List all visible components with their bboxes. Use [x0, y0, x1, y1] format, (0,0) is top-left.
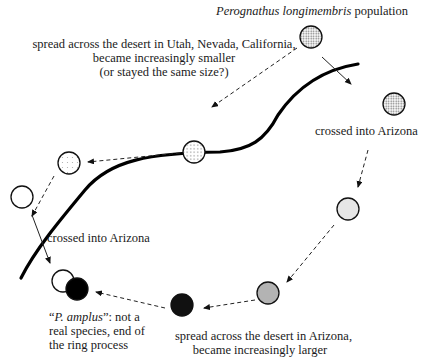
population-west-2 [58, 152, 80, 174]
east-spread-line2: became increasingly larger [175, 343, 345, 357]
crossed-east-label: crossed into Arizona [315, 124, 418, 138]
population-east-1 [383, 93, 405, 115]
end-label: “P. amplus”: not a real species, end of … [49, 310, 145, 352]
east-spread-label: spread across the desert in Arizona, bec… [175, 329, 345, 357]
title-label: Perognathus longimembris population [216, 4, 408, 18]
west-spread-line1: spread across the desert in Utah, Nevada… [0, 37, 328, 51]
population-west-1 [183, 141, 205, 163]
end-line2: real species, end of [49, 324, 145, 338]
crossed-west-label: crossed into Arizona [47, 231, 150, 245]
population-east-2 [337, 198, 359, 220]
population-east-3 [257, 282, 279, 304]
population-end-black [66, 278, 88, 300]
species-name: Perognathus longimembris [216, 4, 351, 18]
end-rest: ”: not a [103, 310, 140, 324]
east-spread-line1: spread across the desert in Arizona, [175, 329, 345, 343]
west-spread-line2: became increasingly smaller [0, 51, 328, 65]
title-suffix: population [351, 4, 408, 18]
west-spread-label: spread across the desert in Utah, Nevada… [0, 37, 328, 79]
population-east-4 [171, 294, 193, 316]
p-amplus: P. amplus [55, 310, 103, 324]
end-line3: the ring process [49, 338, 145, 352]
west-spread-line3: (or stayed the same size?) [0, 65, 328, 79]
population-west-3 [11, 186, 33, 208]
